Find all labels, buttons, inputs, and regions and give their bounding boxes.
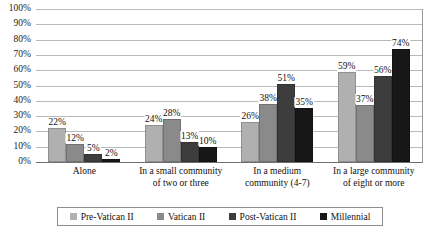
bar-groups: 22%12%5%2%24%28%13%10%26%38%51%35%59%37%… <box>36 9 422 162</box>
legend-label: Vatican II <box>168 212 205 222</box>
bar-group: 59%37%56%74% <box>328 9 419 162</box>
legend-item[interactable]: Millennial <box>320 212 371 222</box>
bar-slot: 24% <box>145 9 163 162</box>
bar[interactable] <box>338 72 356 162</box>
bar-slot: 59% <box>338 9 356 162</box>
x-axis-label-line: In a medium <box>232 166 323 178</box>
bar[interactable] <box>102 159 120 162</box>
legend-label: Millennial <box>331 212 371 222</box>
bar[interactable] <box>374 76 392 162</box>
bar-slot: 5% <box>84 9 102 162</box>
bar-slot: 13% <box>181 9 199 162</box>
bar[interactable] <box>295 108 313 162</box>
legend-swatch-icon <box>70 213 77 220</box>
bar-slot: 28% <box>163 9 181 162</box>
x-axis-label-line: In a small community <box>135 166 226 178</box>
x-axis-category-label: In a small communityof two or three <box>135 166 226 200</box>
bar-slot: 74% <box>392 9 410 162</box>
bar-slot: 35% <box>295 9 313 162</box>
legend-item[interactable]: Pre-Vatican II <box>70 212 134 222</box>
legend-item[interactable]: Vatican II <box>157 212 205 222</box>
bar-value-label: 22% <box>48 117 67 127</box>
grouped-bar-chart: 100%90%80%70%60%50%40%30%20%10%0% 22%12%… <box>0 0 434 235</box>
plot-wrapper: 100%90%80%70%60%50%40%30%20%10%0% 22%12%… <box>0 0 434 172</box>
bar[interactable] <box>48 128 66 162</box>
y-axis-tick: 100% <box>9 4 31 14</box>
x-axis-label-line: of two or three <box>135 178 226 190</box>
y-axis-tick: 20% <box>14 126 31 136</box>
bar-value-label: 12% <box>66 133 85 143</box>
bar[interactable] <box>277 84 295 162</box>
legend-label: Pre-Vatican II <box>81 212 134 222</box>
legend-swatch-icon <box>229 213 236 220</box>
y-axis-tick: 70% <box>14 50 31 60</box>
bar-value-label: 13% <box>180 131 199 141</box>
y-axis-tick: 60% <box>14 65 31 75</box>
y-axis-tick: 80% <box>14 35 31 45</box>
bar-value-label: 5% <box>86 143 101 153</box>
bar-slot: 26% <box>241 9 259 162</box>
bar-value-label: 59% <box>337 61 356 71</box>
bar-value-label: 10% <box>198 136 217 146</box>
bar-value-label: 74% <box>391 38 410 48</box>
bar[interactable] <box>84 154 102 162</box>
bar-value-label: 51% <box>277 73 296 83</box>
bar-value-label: 24% <box>144 114 163 124</box>
chart-legend: Pre-Vatican IIVatican IIPost-Vatican IIM… <box>57 207 383 226</box>
bar-value-label: 37% <box>355 94 374 104</box>
bar-slot: 56% <box>374 9 392 162</box>
plot-area: 22%12%5%2%24%28%13%10%26%38%51%35%59%37%… <box>36 9 423 163</box>
bar-slot: 2% <box>102 9 120 162</box>
y-axis: 100%90%80%70%60%50%40%30%20%10%0% <box>0 0 33 172</box>
bar[interactable] <box>392 49 410 162</box>
x-axis-label-line: In a large community <box>328 166 419 178</box>
bar-value-label: 26% <box>241 111 260 121</box>
x-axis-label-line: community (4-7) <box>232 178 323 190</box>
bar-slot: 12% <box>66 9 84 162</box>
bar-value-label: 2% <box>104 148 119 158</box>
y-axis-tick: 50% <box>14 81 31 91</box>
bar[interactable] <box>163 119 181 162</box>
x-axis-category-label: In a large communityof eight or more <box>328 166 419 200</box>
bar-slot: 37% <box>356 9 374 162</box>
bar[interactable] <box>66 144 84 162</box>
bar-slot: 51% <box>277 9 295 162</box>
bar-group: 22%12%5%2% <box>39 9 130 162</box>
bar-group: 26%38%51%35% <box>232 9 323 162</box>
x-axis-labels: AloneIn a small communityof two or three… <box>36 166 422 200</box>
bar[interactable] <box>181 142 199 162</box>
y-axis-tick: 0% <box>18 157 31 167</box>
x-axis-category-label: In a mediumcommunity (4-7) <box>232 166 323 200</box>
gridline <box>36 162 422 163</box>
bar-slot: 22% <box>48 9 66 162</box>
y-axis-tick: 30% <box>14 111 31 121</box>
x-axis-label-line: of eight or more <box>328 178 419 190</box>
legend-swatch-icon <box>157 213 164 220</box>
bar[interactable] <box>356 105 374 162</box>
legend-label: Post-Vatican II <box>240 212 297 222</box>
bar-value-label: 56% <box>373 65 392 75</box>
x-axis-label-line: Alone <box>39 166 130 178</box>
x-axis-category-label: Alone <box>39 166 130 200</box>
y-axis-tick: 10% <box>14 142 31 152</box>
y-axis-tick: 40% <box>14 96 31 106</box>
bar-value-label: 38% <box>259 93 278 103</box>
bar[interactable] <box>199 147 217 162</box>
bar-value-label: 28% <box>162 108 181 118</box>
bar[interactable] <box>259 104 277 162</box>
bar-group: 24%28%13%10% <box>135 9 226 162</box>
bar-slot: 10% <box>199 9 217 162</box>
bar-slot: 38% <box>259 9 277 162</box>
legend-swatch-icon <box>320 213 327 220</box>
legend-item[interactable]: Post-Vatican II <box>229 212 297 222</box>
bar[interactable] <box>241 122 259 162</box>
y-axis-tick: 90% <box>14 19 31 29</box>
bar-value-label: 35% <box>295 97 314 107</box>
bar[interactable] <box>145 125 163 162</box>
